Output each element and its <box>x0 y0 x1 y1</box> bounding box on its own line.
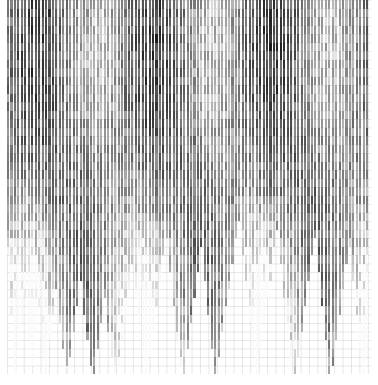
bar-segment <box>311 128 313 137</box>
bar-segment <box>193 213 195 222</box>
bar-segment <box>290 34 292 43</box>
bar-segment <box>231 51 233 60</box>
bar-segment <box>97 94 99 103</box>
bar-segment <box>176 0 178 9</box>
bar-segment <box>135 77 137 86</box>
bar-segment <box>225 238 227 247</box>
bar-segment <box>93 306 95 315</box>
bar-segment <box>118 26 120 35</box>
bar-segment <box>93 298 95 307</box>
bar-segment <box>193 170 195 179</box>
bar-segment <box>245 0 247 9</box>
bar-segment <box>66 77 68 86</box>
bar-segment <box>145 60 147 69</box>
bar-segment <box>356 272 358 281</box>
bar-segment <box>83 306 85 315</box>
bar-segment <box>190 26 192 35</box>
bar-segment <box>256 221 258 230</box>
bar-segment <box>328 196 330 205</box>
bar-segment <box>339 196 341 205</box>
bar-segment <box>263 255 265 264</box>
bar-segment <box>273 179 275 188</box>
bar-segment <box>211 196 213 205</box>
bar-segment <box>256 153 258 162</box>
bar-segment <box>111 94 113 103</box>
bar-segment <box>131 136 133 145</box>
bar-segment <box>31 68 33 77</box>
bar-segment <box>228 0 230 9</box>
bar-segment <box>162 9 164 18</box>
bar-segment <box>321 26 323 35</box>
bar-segment <box>48 289 50 298</box>
bar-segment <box>31 221 33 230</box>
bar-segment <box>259 0 261 9</box>
bar-segment <box>280 221 282 230</box>
bar-segment <box>256 306 258 315</box>
bar-segment <box>28 43 30 52</box>
bar-segment <box>55 94 57 103</box>
bar-segment <box>280 68 282 77</box>
bar-segment <box>152 323 154 332</box>
bar-segment <box>162 0 164 9</box>
bar-segment <box>97 136 99 145</box>
bar-segment <box>332 17 334 26</box>
bar-segment <box>339 170 341 179</box>
bar-segment <box>90 238 92 247</box>
bar-segment <box>190 306 192 315</box>
bar <box>252 0 254 357</box>
bar-segment <box>17 136 19 145</box>
bar-segment <box>35 196 37 205</box>
bar-segment <box>245 196 247 205</box>
bar-segment <box>162 162 164 171</box>
bar-segment <box>218 128 220 137</box>
bar-segment <box>142 85 144 94</box>
bar-segment <box>356 128 358 137</box>
bar-segment <box>90 136 92 145</box>
bar-segment <box>204 17 206 26</box>
bar-segment <box>359 153 361 162</box>
bar-segment <box>228 170 230 179</box>
bar-segment <box>28 247 30 256</box>
bar-segment <box>363 204 365 213</box>
bar-segment <box>145 68 147 77</box>
bar-segment <box>363 306 365 315</box>
bar-segment <box>100 153 102 162</box>
bar-segment <box>35 153 37 162</box>
bar-segment <box>339 94 341 103</box>
bar-segment <box>128 247 130 256</box>
bar-segment <box>124 255 126 264</box>
bar-segment <box>10 204 12 213</box>
bar-segment <box>218 179 220 188</box>
bar-segment <box>128 26 130 35</box>
bar-segment <box>73 179 75 188</box>
bar-segment <box>342 153 344 162</box>
bar-segment <box>332 0 334 9</box>
bar-segment <box>114 119 116 128</box>
bar-segment <box>328 264 330 273</box>
bar-segment <box>294 94 296 103</box>
bar-segment <box>231 136 233 145</box>
bar-segment <box>124 128 126 137</box>
bar-segment <box>231 26 233 35</box>
bar-segment <box>363 230 365 239</box>
bar-segment <box>128 221 130 230</box>
bar-segment <box>118 136 120 145</box>
bar-segment <box>197 238 199 247</box>
bar-segment <box>24 264 26 273</box>
bar-segment <box>149 34 151 43</box>
bar-segment <box>339 85 341 94</box>
bar-segment <box>107 9 109 18</box>
bar-segment <box>93 340 95 349</box>
bar-segment <box>21 0 23 9</box>
bar-segment <box>193 119 195 128</box>
bar-segment <box>149 298 151 307</box>
bar-segment <box>211 145 213 154</box>
bar-segment <box>10 119 12 128</box>
bar-segment <box>14 60 16 69</box>
bar-segment <box>59 128 61 137</box>
bar-segment <box>352 26 354 35</box>
bar-segment <box>266 179 268 188</box>
bar-segment <box>135 162 137 171</box>
bar <box>339 0 341 315</box>
bar-segment <box>28 136 30 145</box>
